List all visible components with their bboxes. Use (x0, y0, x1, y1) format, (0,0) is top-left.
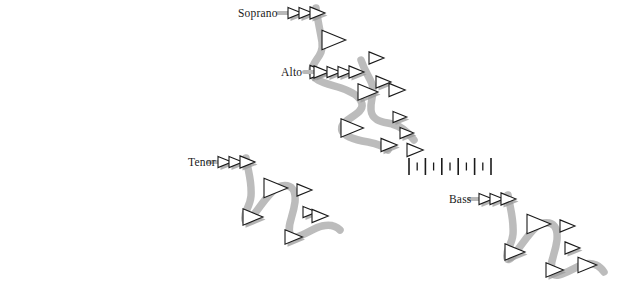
voice-label-alto: Alto (281, 66, 302, 78)
voice-label-tenor: Tenor (188, 156, 216, 168)
figure-canvas: SopranoAltoTenorBass (0, 0, 636, 292)
voice-label-bass: Bass (449, 193, 472, 205)
figure-background (0, 0, 636, 292)
voice-label-soprano: Soprano (238, 7, 278, 20)
voice-parts-figure: SopranoAltoTenorBass (0, 0, 636, 292)
